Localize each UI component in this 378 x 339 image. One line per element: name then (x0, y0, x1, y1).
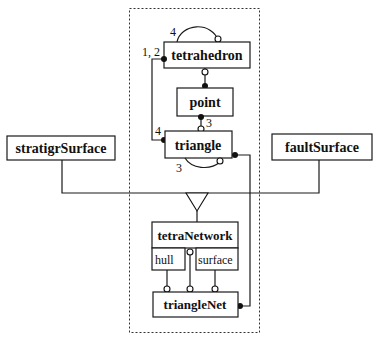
hollow-dot-icon (202, 69, 208, 75)
qualifier-hull: hull (152, 248, 185, 270)
class-triangle[interactable]: triangle (165, 131, 232, 158)
class-name: triangleNet (164, 297, 227, 312)
hollow-dot-icon (212, 286, 218, 292)
class-diagram: 4 tetrahedron point 3 1, 2 4 triangle 3 … (0, 0, 378, 339)
class-stratigrSurface[interactable]: stratigrSurface (7, 136, 115, 160)
hollow-dot-icon (215, 36, 221, 42)
class-name: point (189, 95, 220, 110)
inheritance-triangle-icon (186, 193, 208, 211)
multiplicity-label: 4 (170, 25, 176, 39)
multiplicity-label: 3 (176, 161, 182, 175)
generalization-line (62, 160, 319, 193)
class-triangleNet[interactable]: triangleNet (153, 292, 238, 317)
hollow-dot-icon (164, 286, 170, 292)
class-name: stratigrSurface (16, 141, 107, 156)
multiplicity-label: 4 (155, 124, 161, 138)
hollow-dot-icon (217, 158, 223, 164)
filled-dot-icon (198, 114, 204, 120)
tetrahedron-self-association (177, 27, 218, 42)
multiplicity-label: 1, 2 (142, 45, 160, 59)
class-tetraNetwork[interactable]: tetraNetwork (152, 222, 238, 248)
qualifier-surface: surface (196, 248, 238, 270)
class-name: faultSurface (285, 140, 359, 155)
filled-dot-icon (232, 152, 238, 158)
hollow-dot-icon (187, 286, 193, 292)
multiplicity-label: 3 (206, 116, 212, 130)
qualifier-label: surface (198, 253, 233, 267)
class-tetrahedron[interactable]: tetrahedron (164, 42, 250, 68)
class-name: tetrahedron (171, 48, 242, 63)
filled-dot-icon (161, 56, 167, 62)
qualifier-label: hull (155, 253, 174, 267)
class-name: tetraNetwork (157, 228, 233, 243)
triangle-self-association (185, 158, 220, 167)
class-point[interactable]: point (177, 88, 233, 116)
class-name: triangle (175, 138, 222, 153)
hollow-dot-icon (187, 249, 193, 255)
class-faultSurface[interactable]: faultSurface (272, 134, 372, 160)
